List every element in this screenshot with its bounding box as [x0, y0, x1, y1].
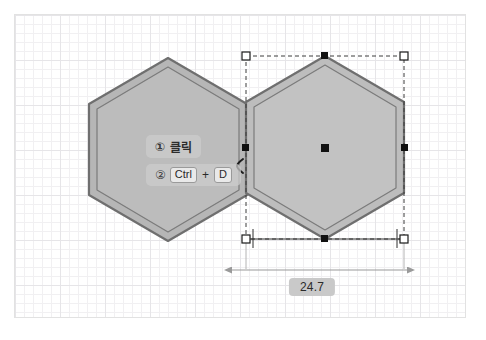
handle-corner-top-left[interactable] [242, 52, 250, 60]
handle-corner-bottom-left[interactable] [242, 235, 250, 243]
handle-center-move[interactable] [321, 144, 329, 152]
drawing-canvas[interactable]: ① 클릭 ② Ctrl + D 24.7 [14, 14, 466, 318]
cad-application-window: ① 클릭 ② Ctrl + D 24.7 [0, 0, 486, 340]
handle-edge-middle-right[interactable] [401, 144, 408, 151]
key-d: D [214, 167, 232, 183]
handle-edge-bottom-center[interactable] [321, 235, 328, 242]
dimension-value-chip[interactable]: 24.7 [289, 278, 335, 296]
handle-edge-top-center[interactable] [321, 52, 328, 59]
callout-step-1: ① 클릭 [146, 135, 201, 158]
callout-step-1-text: 클릭 [170, 138, 192, 155]
key-separator: + [201, 168, 210, 182]
callout-step-2-marker: ② [155, 169, 166, 181]
handle-edge-middle-left[interactable] [242, 144, 249, 151]
handle-corner-top-right[interactable] [400, 52, 408, 60]
key-ctrl: Ctrl [170, 167, 197, 183]
handle-corner-bottom-right[interactable] [400, 235, 408, 243]
callout-step-1-marker: ① [155, 141, 165, 153]
callout-step-2: ② Ctrl + D [146, 164, 241, 186]
